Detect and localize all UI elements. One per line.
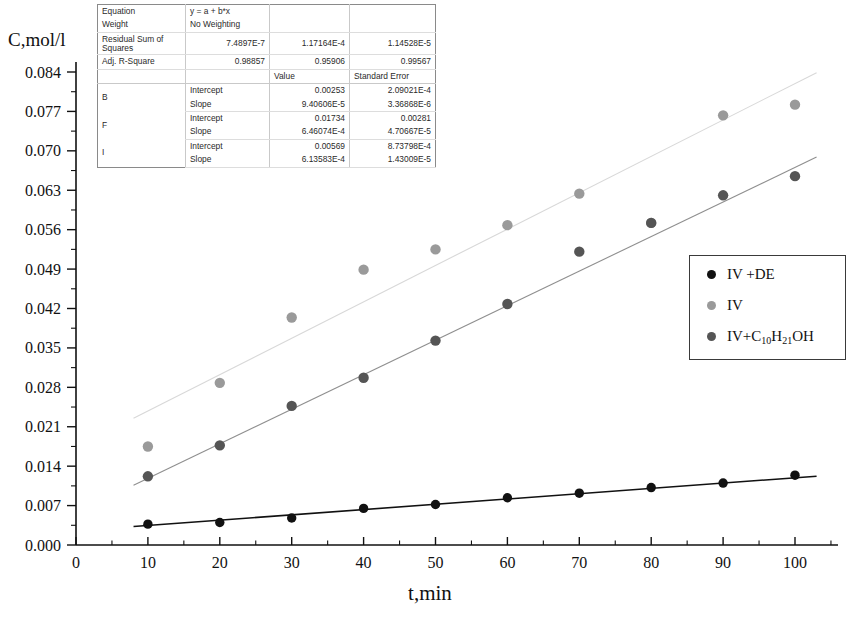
fit-table-cell: 0.00253 [270, 84, 350, 98]
data-point-series-2 [143, 441, 153, 451]
fit-table-cell: Equation [98, 5, 186, 19]
x-axis-tick-label: 80 [643, 554, 659, 571]
legend-item-1[interactable]: IV +DE [707, 262, 845, 287]
y-axis-tick-label: 0.035 [25, 339, 61, 356]
fit-table-cell: 0.01734 [270, 112, 350, 126]
fit-table-cell [270, 18, 350, 32]
y-axis-title: C,mol/l [8, 29, 66, 50]
fit-table-group-label: B [98, 84, 186, 112]
x-axis-tick-label: 20 [212, 554, 228, 571]
fit-table-cell: 0.99567 [350, 55, 436, 69]
fit-table-cell: 2.09021E-4 [350, 84, 436, 98]
fit-table-cell: 7.4897E-7 [186, 32, 270, 55]
fit-table-cell [98, 69, 186, 83]
fit-table-group-label: I [98, 139, 186, 167]
fit-table-cell: 6.13583E-4 [270, 153, 350, 167]
fit-table-cell: 1.43009E-5 [350, 153, 436, 167]
fit-table-cell: No Weighting [186, 18, 270, 32]
y-axis-tick-label: 0.028 [25, 379, 61, 396]
fit-table-cell [350, 5, 436, 19]
legend-marker-icon [707, 332, 716, 341]
data-point-series-2 [718, 110, 728, 120]
data-point-series-1 [215, 518, 224, 527]
data-point-series-3 [143, 471, 153, 481]
data-point-series-1 [431, 500, 440, 509]
data-point-series-2 [215, 378, 225, 388]
fit-table-cell: 6.46074E-4 [270, 125, 350, 139]
fit-table-cell: 0.95906 [270, 55, 350, 69]
data-point-series-1 [647, 483, 656, 492]
data-point-series-2 [790, 99, 800, 109]
fit-table-cell: Standard Error [350, 69, 436, 83]
data-point-series-1 [718, 478, 727, 487]
legend-box: IV +DEIVIV+C10H21OH [689, 255, 846, 360]
data-point-series-3 [430, 335, 440, 345]
fit-table-param-row: IIntercept0.005698.73798E-4 [98, 139, 436, 153]
y-axis-tick-label: 0.021 [25, 418, 61, 435]
data-point-series-3 [502, 299, 512, 309]
fit-table-cell: Residual Sum of Squares [98, 32, 186, 55]
data-point-series-3 [646, 218, 656, 228]
data-point-series-3 [790, 171, 800, 181]
fit-table-cell: Intercept [186, 112, 270, 126]
x-axis-tick-label: 10 [140, 554, 156, 571]
fit-table-cell: 4.70667E-5 [350, 125, 436, 139]
data-point-series-3 [718, 190, 728, 200]
data-point-series-1 [790, 470, 799, 479]
fit-table-param-row: FIntercept0.017340.00281 [98, 112, 436, 126]
fit-table-cell: Adj. R-Square [98, 55, 186, 69]
fit-table-row: WeightNo Weighting [98, 18, 436, 32]
fit-table-cell: Weight [98, 18, 186, 32]
y-axis-tick-label: 0.007 [25, 497, 61, 514]
fit-table-cell: 0.98857 [186, 55, 270, 69]
y-axis-tick-label: 0.070 [25, 142, 61, 159]
x-axis-tick-label: 30 [284, 554, 300, 571]
fit-table-cell: 3.36868E-6 [350, 98, 436, 112]
y-axis-tick-label: 0.077 [25, 103, 61, 120]
data-point-series-2 [502, 220, 512, 230]
fit-table-cell: 8.73798E-4 [350, 139, 436, 153]
x-axis-tick-label: 70 [571, 554, 587, 571]
fit-table-row: Residual Sum of Squares7.4897E-71.17164E… [98, 32, 436, 55]
fit-table-cell: Slope [186, 98, 270, 112]
y-axis-tick-label: 0.000 [25, 537, 61, 554]
x-axis-title: t,min [408, 581, 452, 605]
legend-item-2[interactable]: IV [707, 293, 845, 318]
data-point-series-1 [143, 519, 152, 528]
legend-marker-icon [707, 270, 716, 279]
fit-table-cell: Slope [186, 153, 270, 167]
legend-item-label: IV+C10H21OH [727, 328, 814, 346]
fit-table-cell: 0.00281 [350, 112, 436, 126]
y-axis-tick-label: 0.014 [25, 458, 61, 475]
fit-table-cell [186, 69, 270, 83]
data-point-series-3 [287, 401, 297, 411]
fit-table-cell [270, 5, 350, 19]
data-point-series-1 [287, 513, 296, 522]
chart-container: 01020304050607080901000.0000.0070.0140.0… [0, 0, 851, 622]
fit-table-cell: Slope [186, 125, 270, 139]
data-point-series-1 [359, 504, 368, 513]
fit-table-cell: 1.17164E-4 [270, 32, 350, 55]
legend-item-label: IV +DE [727, 266, 775, 283]
fit-table-row: Equationy = a + b*x [98, 5, 436, 19]
fit-line-series-1 [134, 476, 817, 526]
legend-item-3[interactable]: IV+C10H21OH [707, 324, 845, 349]
fit-table-param-row: BIntercept0.002532.09021E-4 [98, 84, 436, 98]
fit-table-row: Adj. R-Square0.988570.959060.99567 [98, 55, 436, 69]
fit-table-cell: 0.00569 [270, 139, 350, 153]
y-axis-tick-label: 0.049 [25, 261, 61, 278]
data-point-series-1 [575, 488, 584, 497]
x-axis-tick-label: 100 [783, 554, 807, 571]
fit-table-cell: Intercept [186, 84, 270, 98]
x-axis-tick-label: 50 [428, 554, 444, 571]
fit-table-row: ValueStandard Error [98, 69, 436, 83]
x-axis-tick-label: 60 [499, 554, 515, 571]
y-axis-tick-label: 0.056 [25, 221, 61, 238]
data-point-series-2 [430, 244, 440, 254]
fit-parameters-table: Equationy = a + b*xWeightNo WeightingRes… [97, 4, 436, 168]
data-point-series-3 [574, 246, 584, 256]
x-axis-tick-label: 40 [356, 554, 372, 571]
y-axis-tick-label: 0.063 [25, 182, 61, 199]
data-point-series-2 [574, 188, 584, 198]
fit-table-group-label: F [98, 112, 186, 140]
